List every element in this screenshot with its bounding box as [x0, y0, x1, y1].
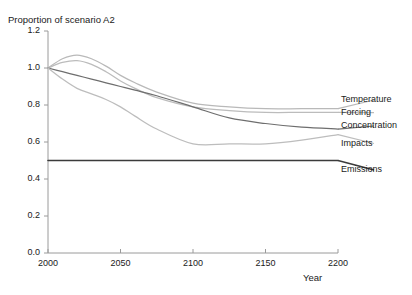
legend-label-emissions: Emissions: [341, 164, 382, 174]
y-tick-label: 0.6: [14, 136, 40, 146]
legend-label-temperature: Temperature: [341, 94, 392, 104]
y-tick-label: 0.2: [14, 210, 40, 220]
legend-label-concentration: Concentration: [341, 120, 397, 130]
y-tick-label: 1.0: [14, 62, 40, 72]
series-line-concentration: [48, 68, 338, 129]
x-tick-label: 2050: [101, 258, 141, 268]
x-tick-label: 2000: [28, 258, 68, 268]
legend-label-impacts: Impacts: [341, 138, 373, 148]
x-tick-label: 2100: [173, 258, 213, 268]
series-line-temperature: [48, 55, 338, 109]
legend-label-forcing: Forcing: [341, 107, 371, 117]
x-tick-label: 2200: [318, 258, 358, 268]
y-tick-label: 0.0: [14, 247, 40, 257]
series-line-forcing: [48, 61, 338, 113]
y-tick-label: 0.4: [14, 173, 40, 183]
y-tick-label: 0.8: [14, 99, 40, 109]
plot-area: [0, 0, 412, 295]
chart-figure: Proportion of scenario A2 Year 0.00.20.4…: [0, 0, 412, 295]
data-series-group: [48, 55, 338, 160]
y-tick-label: 1.2: [14, 25, 40, 35]
x-axis-ticks: [48, 249, 338, 253]
y-axis-ticks: [44, 31, 48, 253]
x-tick-label: 2150: [246, 258, 286, 268]
